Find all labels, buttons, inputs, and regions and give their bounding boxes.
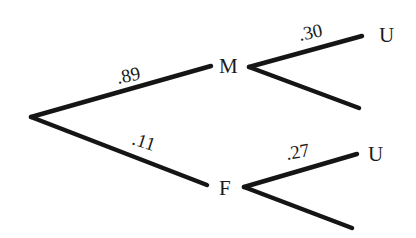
probability-tree-diagram: M F U U .89 .11 .30 .27 <box>0 0 416 238</box>
node-label-f-u: U <box>368 142 383 166</box>
branch-f-to-not-u <box>244 187 352 228</box>
node-label-m: M <box>219 54 238 78</box>
node-label-f: F <box>219 176 231 200</box>
node-label-m-u: U <box>379 23 394 47</box>
branch-root-to-f <box>31 117 207 185</box>
prob-label-m-u: .30 <box>296 19 324 44</box>
branch-m-to-not-u <box>249 67 359 108</box>
prob-label-f-u: .27 <box>284 139 311 164</box>
prob-label-m: .89 <box>114 62 142 87</box>
prob-label-f: .11 <box>130 128 158 155</box>
